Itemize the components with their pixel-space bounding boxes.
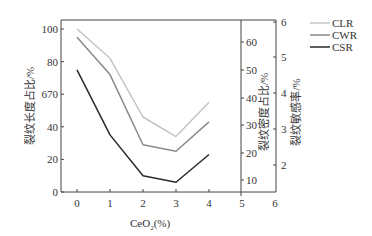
- left-tick-label: 100: [42, 23, 59, 35]
- outer-right-axis-label: 裂纹敏感率/%: [289, 78, 302, 145]
- outer-right-tick-label: 3: [281, 123, 287, 135]
- legend-label-csr: CSR: [332, 41, 353, 53]
- chart-container: 0204067080100012345660504030201023456裂纹长…: [0, 0, 372, 236]
- x-tick-label: 1: [107, 197, 113, 209]
- x-tick-label: 2: [140, 197, 146, 209]
- inner-right-tick-label: 20: [246, 147, 258, 159]
- inner-right-axis-label: 裂纹密度占比/%: [257, 73, 270, 151]
- x-tick-label: 0: [74, 197, 80, 209]
- series-line-clr: [77, 29, 209, 137]
- left-tick-label: 670: [42, 88, 59, 100]
- left-tick-label: 80: [47, 56, 59, 68]
- left-axis-label: 裂纹长度占比/%: [23, 67, 36, 145]
- outer-right-tick-label: 5: [281, 51, 287, 63]
- series-line-csr: [77, 70, 209, 182]
- line-chart: 0204067080100012345660504030201023456裂纹长…: [0, 0, 372, 236]
- x-axis-label: CeO2(%): [130, 217, 170, 232]
- x-tick-label: 6: [272, 197, 278, 209]
- outer-right-tick-label: 2: [281, 159, 287, 171]
- inner-right-tick-label: 10: [246, 174, 258, 186]
- legend-label-clr: CLR: [332, 17, 354, 29]
- left-tick-label: 20: [47, 153, 59, 165]
- outer-right-tick-label: 6: [281, 16, 287, 28]
- series-line-cwr: [77, 37, 209, 151]
- legend-label-cwr: CWR: [332, 29, 358, 41]
- inner-right-tick-label: 30: [246, 119, 258, 131]
- inner-right-tick-label: 60: [246, 36, 258, 48]
- inner-right-tick-label: 50: [246, 64, 258, 76]
- outer-right-tick-label: 4: [281, 87, 287, 99]
- left-tick-label: 0: [53, 186, 59, 198]
- x-tick-label: 3: [173, 197, 179, 209]
- left-tick-label: 40: [47, 121, 59, 133]
- x-tick-label: 4: [206, 197, 212, 209]
- inner-right-tick-label: 40: [246, 92, 258, 104]
- x-tick-label: 5: [239, 197, 245, 209]
